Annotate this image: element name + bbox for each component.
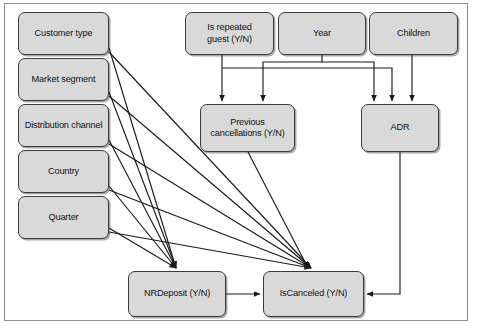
node-year[interactable]: Year <box>278 12 366 55</box>
node-label: Market segment <box>32 74 96 86</box>
node-children[interactable]: Children <box>369 12 458 55</box>
node-customer-type[interactable]: Customer type <box>18 12 109 55</box>
node-label: Previouscancellations (Y/N) <box>210 117 284 140</box>
node-label: Distribution channel <box>25 120 103 132</box>
node-label: Is repeatedguest (Y/N) <box>207 22 252 45</box>
node-label: Country <box>48 166 79 178</box>
node-market-segment[interactable]: Market segment <box>18 58 109 101</box>
node-previous-cancellations[interactable]: Previouscancellations (Y/N) <box>200 104 295 152</box>
node-label: ADR <box>391 122 410 134</box>
node-label: Year <box>313 28 331 40</box>
node-label: Customer type <box>35 28 93 40</box>
node-label: NRDeposit (Y/N) <box>144 288 210 300</box>
node-iscanceled[interactable]: IsCanceled (Y/N) <box>263 271 364 317</box>
node-country[interactable]: Country <box>18 150 109 193</box>
node-nrdeposit[interactable]: NRDeposit (Y/N) <box>128 271 226 317</box>
node-label: Quarter <box>48 212 78 224</box>
node-distribution-channel[interactable]: Distribution channel <box>18 104 109 147</box>
node-is-repeated-guest[interactable]: Is repeatedguest (Y/N) <box>185 12 274 55</box>
node-label: Children <box>397 28 430 40</box>
node-adr[interactable]: ADR <box>361 104 439 152</box>
node-label: IsCanceled (Y/N) <box>280 288 348 300</box>
node-quarter[interactable]: Quarter <box>18 196 109 239</box>
diagram-canvas: Customer type Market segment Distributio… <box>0 0 477 334</box>
